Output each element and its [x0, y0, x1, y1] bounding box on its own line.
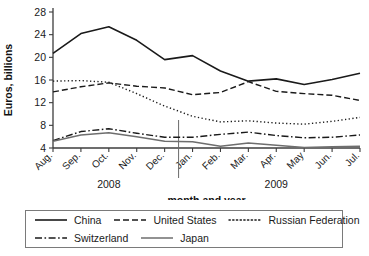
series-line-china [53, 27, 360, 85]
chart-legend: ChinaUnited StatesRussian FederationSwit… [25, 210, 343, 248]
legend-row: ChinaUnited StatesRussian Federation [26, 211, 342, 229]
y-tick-label: 20 [34, 51, 46, 63]
y-tick-label: 8 [40, 119, 46, 131]
legend-swatch-dotted [228, 215, 262, 225]
y-tick-label: 28 [34, 6, 46, 18]
series-line-switzerland [53, 129, 360, 141]
legend-entry-japan[interactable]: Japan [140, 232, 209, 244]
legend-swatch-dashdot [34, 233, 68, 243]
x-tick-label: Aug. [32, 150, 54, 172]
y-tick-label: 16 [34, 74, 46, 86]
x-tick-label: Nov. [116, 150, 138, 172]
year-label: 2008 [97, 178, 121, 190]
legend-swatch-dashed [113, 215, 147, 225]
x-axis-title: month and year [167, 194, 245, 200]
x-tick-label: Sep. [60, 150, 82, 172]
x-tick-label: Jul. [343, 150, 362, 169]
y-axis-tick-labels: 481216202428 [34, 6, 46, 154]
x-tick-label: Jan. [173, 150, 194, 171]
chart-canvas: 481216202428 Aug.Sep.Oct.Nov.Dec.Jan.Feb… [0, 0, 369, 200]
x-tick-label: Jun. [312, 150, 333, 171]
series-line-russian-federation [53, 81, 360, 125]
legend-entry-united-states[interactable]: United States [113, 214, 216, 226]
series-line-united-states [53, 82, 360, 101]
x-tick-label: Mar. [228, 150, 250, 172]
y-tick-label: 24 [34, 28, 46, 40]
y-axis-title: Euros, billions [2, 44, 14, 117]
x-tick-label: Feb. [200, 150, 222, 172]
legend-label: China [74, 214, 101, 226]
legend-label: Switzerland [74, 232, 128, 244]
x-tick-label: Oct. [89, 150, 110, 171]
legend-row: SwitzerlandJapan [26, 229, 342, 247]
legend-label: Russian Federation [268, 214, 359, 226]
x-tick-label: Apr. [257, 150, 277, 170]
year-group-labels: 20082009 [97, 178, 288, 190]
x-axis-tick-labels: Aug.Sep.Oct.Nov.Dec.Jan.Feb.Mar.Apr.MayJ… [32, 150, 361, 172]
x-tick-label: Dec. [144, 150, 166, 172]
legend-swatch-solid-light [140, 233, 174, 243]
line-chart-figure: 481216202428 Aug.Sep.Oct.Nov.Dec.Jan.Feb… [0, 0, 369, 200]
series-line-japan [53, 133, 360, 148]
x-tick-label: May [284, 150, 305, 171]
year-label: 2009 [265, 178, 289, 190]
y-tick-label: 12 [34, 96, 46, 108]
chart-screenshot: 481216202428 Aug.Sep.Oct.Nov.Dec.Jan.Feb… [0, 0, 369, 256]
legend-label: United States [153, 214, 216, 226]
legend-entry-china[interactable]: China [34, 214, 101, 226]
legend-label: Japan [180, 232, 209, 244]
legend-entry-russian-federation[interactable]: Russian Federation [228, 214, 359, 226]
legend-swatch-solid [34, 215, 68, 225]
legend-entry-switzerland[interactable]: Switzerland [34, 232, 128, 244]
data-series-group [53, 27, 360, 148]
